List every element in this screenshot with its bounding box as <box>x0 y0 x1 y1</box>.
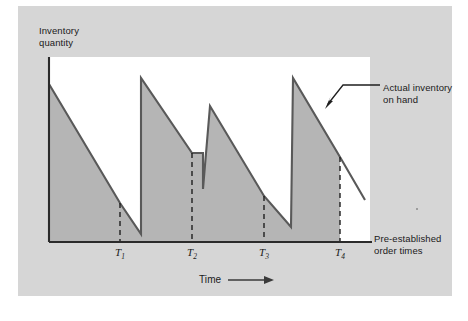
annotation-leader-line <box>328 85 380 104</box>
x-axis-note-label: Pre-established order times <box>374 233 442 256</box>
tick-label-t4: T4 <box>335 246 345 261</box>
tick-label-t1-sub: 1 <box>121 252 125 261</box>
series-annotation-label: Actual inventory on hand <box>383 82 452 105</box>
page-speck <box>416 208 418 210</box>
inventory-figure: Inventory quantity Actual inventory on h… <box>0 0 468 321</box>
tick-label-t2-sub: 2 <box>193 252 197 261</box>
time-arrowhead <box>264 276 274 284</box>
tick-label-t1: T1 <box>115 246 125 261</box>
tick-label-t3: T3 <box>259 246 269 261</box>
chart-graphics <box>0 0 468 321</box>
y-axis-label: Inventory quantity <box>39 25 79 48</box>
tick-label-t2: T2 <box>187 246 197 261</box>
tick-label-t4-sub: 4 <box>341 252 345 261</box>
tick-label-t3-sub: 3 <box>265 252 269 261</box>
inventory-fill <box>49 78 340 242</box>
annotation-arrowhead <box>325 96 333 110</box>
time-axis-label: Time <box>199 274 221 286</box>
